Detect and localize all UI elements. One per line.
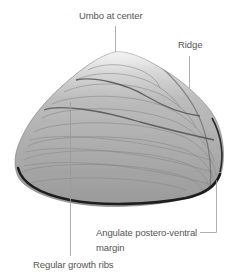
shell-diagram: Umbo at center Ridge Angulate postero-ve… [0, 0, 240, 272]
label-umbo: Umbo at center [79, 10, 143, 22]
label-margin-line2: margin [96, 240, 208, 255]
label-margin: Angulate postero-ventral margin [96, 225, 208, 255]
label-ribs: Regular growth ribs [33, 259, 113, 271]
label-ridge: Ridge [178, 39, 202, 51]
label-margin-line1: Angulate postero-ventral [96, 225, 208, 240]
